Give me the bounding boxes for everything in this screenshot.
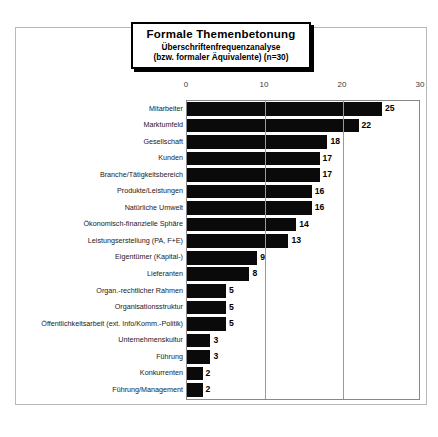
bar-value-label: 2 xyxy=(206,368,211,378)
bar xyxy=(187,367,203,381)
bar xyxy=(187,251,257,265)
bar xyxy=(187,102,382,116)
x-tick-label: 20 xyxy=(338,80,347,89)
bar-value-label: 16 xyxy=(315,202,325,212)
bar xyxy=(187,201,312,215)
bar xyxy=(187,301,226,315)
bar xyxy=(187,284,226,298)
category-label: Öffentlichkeitsarbeit (ext. Info/Komm.-P… xyxy=(41,319,183,328)
bar-row: Mitarbeiter25 xyxy=(187,101,419,118)
bar xyxy=(187,350,210,364)
bar xyxy=(187,234,288,248)
x-tick-label: 0 xyxy=(184,80,188,89)
bar-row: Natürliche Umwelt16 xyxy=(187,200,419,217)
bar-rows: Mitarbeiter25Marktumfeld22Gesellschaft18… xyxy=(187,101,419,399)
bar-row: Öffentlichkeitsarbeit (ext. Info/Komm.-P… xyxy=(187,316,419,333)
bar-row: Führung3 xyxy=(187,349,419,366)
x-axis: 0102030 xyxy=(186,80,420,94)
category-label: Kunden xyxy=(158,153,183,162)
chart-title-sub1: Überschriftenfrequenzanalyse xyxy=(139,42,303,52)
bar-row: Marktumfeld22 xyxy=(187,118,419,135)
bar-row: Produkte/Leistungen16 xyxy=(187,184,419,201)
bar xyxy=(187,168,320,182)
gridline xyxy=(343,101,344,399)
bar-row: Lieferanten8 xyxy=(187,266,419,283)
category-label: Leistungserstellung (PA, F+E) xyxy=(88,236,183,245)
bar-value-label: 25 xyxy=(385,103,395,113)
bar-row: Eigentümer (Kapital-)9 xyxy=(187,250,419,267)
category-label: Eigentümer (Kapital-) xyxy=(115,252,183,261)
bar xyxy=(187,119,359,133)
bar-value-label: 3 xyxy=(213,351,218,361)
x-tick-label: 30 xyxy=(416,80,425,89)
bar xyxy=(187,152,320,166)
plot-area: Mitarbeiter25Marktumfeld22Gesellschaft18… xyxy=(186,100,420,400)
bar-value-label: 18 xyxy=(330,136,340,146)
category-label: Konkurrenten xyxy=(140,368,183,377)
category-label: Lieferanten xyxy=(147,269,183,278)
category-label: Organisationsstruktur xyxy=(115,302,183,311)
bar-value-label: 3 xyxy=(213,335,218,345)
gridline xyxy=(265,101,266,399)
category-label: Führung xyxy=(156,352,183,361)
chart-title-main: Formale Themenbetonung xyxy=(139,28,303,41)
bar-value-label: 5 xyxy=(229,302,234,312)
bar-value-label: 2 xyxy=(206,384,211,394)
bar xyxy=(187,317,226,331)
bar xyxy=(187,383,203,397)
bar-row: Unternehmenskultur3 xyxy=(187,333,419,350)
category-label: Ökonomisch-finanzielle Sphäre xyxy=(84,219,183,228)
bar-value-label: 16 xyxy=(315,186,325,196)
bar-value-label: 8 xyxy=(252,268,257,278)
category-label: Mitarbeiter xyxy=(149,104,183,113)
bar-row: Leistungserstellung (PA, F+E)13 xyxy=(187,233,419,250)
category-label: Gesellschaft xyxy=(143,137,183,146)
category-label: Natürliche Umwelt xyxy=(125,203,183,212)
bar-value-label: 22 xyxy=(362,120,372,130)
bar-row: Kunden17 xyxy=(187,151,419,168)
bar xyxy=(187,185,312,199)
bar-row: Ökonomisch-finanzielle Sphäre14 xyxy=(187,217,419,234)
chart-title-sub2: (bzw. formaler Äquivalente) (n=30) xyxy=(139,52,303,62)
bar xyxy=(187,135,327,149)
bar-row: Führung/Management2 xyxy=(187,382,419,399)
category-label: Unternehmenskultur xyxy=(118,335,183,344)
category-label: Führung/Management xyxy=(112,385,183,394)
bar-row: Konkurrenten2 xyxy=(187,366,419,383)
bar-value-label: 5 xyxy=(229,285,234,295)
bar-row: Branche/Tätigkeitsbereich17 xyxy=(187,167,419,184)
bar xyxy=(187,267,249,281)
bar-value-label: 17 xyxy=(323,153,333,163)
category-label: Branche/Tätigkeitsbereich xyxy=(100,170,183,179)
category-label: Organ.-rechtlicher Rahmen xyxy=(96,286,183,295)
bar-row: Organisationsstruktur5 xyxy=(187,300,419,317)
bar-value-label: 5 xyxy=(229,318,234,328)
category-label: Marktumfeld xyxy=(143,120,183,129)
chart-title-box: Formale Themenbetonung Überschriftenfreq… xyxy=(131,22,311,69)
x-tick-label: 10 xyxy=(260,80,269,89)
bar xyxy=(187,218,296,232)
bar-value-label: 14 xyxy=(299,219,309,229)
category-label: Produkte/Leistungen xyxy=(117,186,183,195)
bar xyxy=(187,334,210,348)
bar-value-label: 13 xyxy=(291,235,301,245)
bar-row: Gesellschaft18 xyxy=(187,134,419,151)
bar-row: Organ.-rechtlicher Rahmen5 xyxy=(187,283,419,300)
bar-value-label: 17 xyxy=(323,169,333,179)
